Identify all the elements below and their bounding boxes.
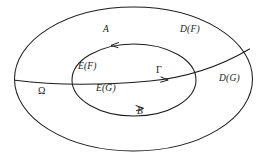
- set-diagram-figure: A D(F) E(F) Γ D(G) Ω E(G) B: [0, 0, 266, 156]
- label-omega: Ω: [38, 86, 46, 96]
- label-E-of-G: E(G): [96, 84, 116, 94]
- label-D-of-F: D(F): [180, 25, 200, 35]
- gamma-curve: [15, 49, 249, 84]
- label-A: A: [103, 25, 109, 35]
- inner-ellipse-boundary: [72, 44, 196, 116]
- label-E-of-F: E(F): [78, 62, 97, 72]
- label-B: B: [137, 107, 143, 117]
- label-D-of-G: D(G): [219, 74, 240, 84]
- outer-ellipse-boundary: [15, 7, 253, 151]
- label-gamma: Γ: [156, 65, 162, 75]
